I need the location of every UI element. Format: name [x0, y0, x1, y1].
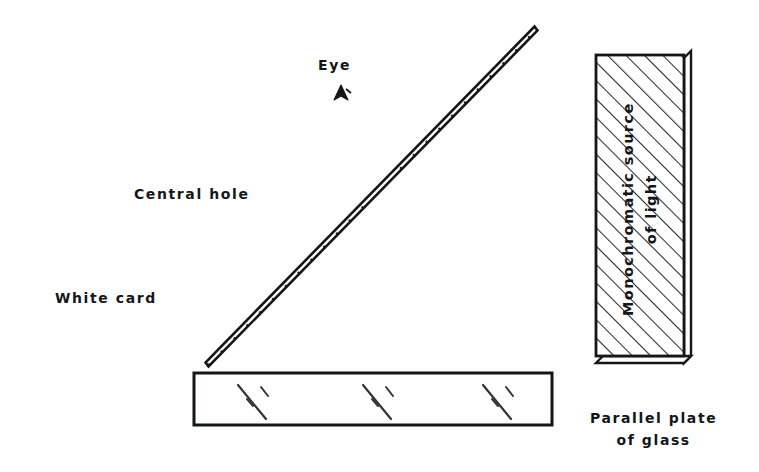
diagram-artwork: [0, 0, 759, 472]
label-parallel-plate-line1: Parallel plate: [590, 410, 717, 426]
label-parallel-plate: Parallel plate of glass: [590, 408, 717, 451]
label-white-card: White card: [55, 288, 157, 310]
eye-marker-icon: [334, 85, 351, 100]
label-eye: Eye: [318, 55, 351, 77]
parallel-plate-of-glass: [194, 373, 552, 425]
label-parallel-plate-line2: of glass: [590, 430, 717, 452]
label-central-hole: Central hole: [134, 184, 250, 206]
white-card-hatching: [208, 36, 534, 370]
white-card-outline: [206, 27, 538, 367]
source-box-front-face: [596, 55, 684, 356]
white-card-bar: [206, 27, 538, 371]
monochromatic-source-box: [596, 51, 691, 363]
diagram-canvas: Eye Central hole White card Monochromati…: [0, 0, 759, 472]
